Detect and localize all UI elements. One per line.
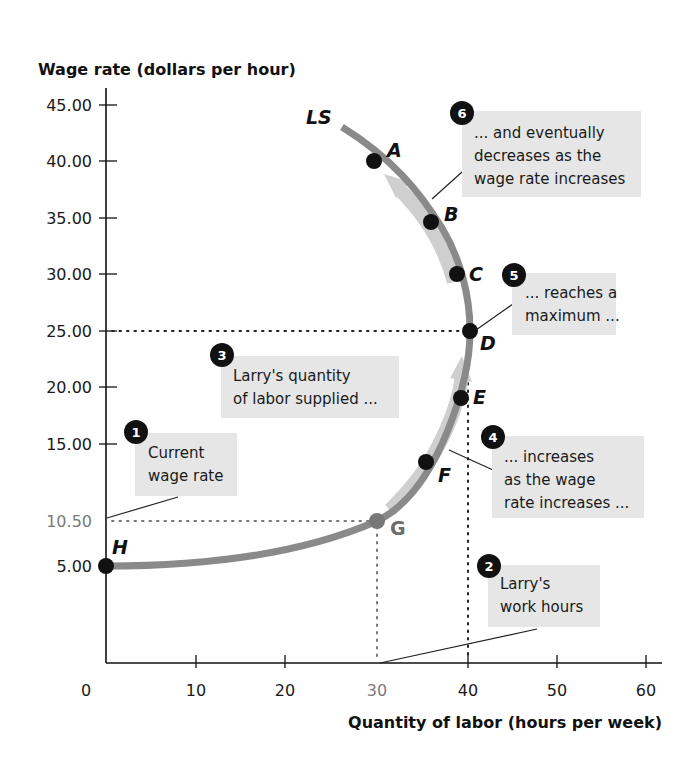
svg-text:wage rate: wage rate xyxy=(148,467,223,485)
y-tick-45: 45.00 xyxy=(46,96,92,115)
y-axis-title: Wage rate (dollars per hour) xyxy=(38,60,296,79)
svg-text:3: 3 xyxy=(217,348,226,363)
y-tick-25: 25.00 xyxy=(46,322,92,341)
point-e xyxy=(453,390,469,406)
y-tick-labels: 45.00 40.00 35.00 30.00 25.00 20.00 15.0… xyxy=(46,96,92,576)
point-label-f: F xyxy=(438,464,451,486)
svg-text:2: 2 xyxy=(484,559,493,574)
svg-text:6: 6 xyxy=(457,106,466,121)
point-label-e: E xyxy=(473,386,486,408)
x-tick-10: 10 xyxy=(186,681,206,700)
point-c xyxy=(449,266,465,282)
svg-text:4: 4 xyxy=(488,430,497,445)
point-a xyxy=(366,153,382,169)
svg-text:... and eventually: ... and eventually xyxy=(474,124,605,142)
svg-text:Current: Current xyxy=(148,444,204,462)
x-tick-labels: 0 10 20 30 40 50 60 xyxy=(81,681,656,700)
point-label-d: D xyxy=(480,332,496,354)
svg-text:Larry's quantity: Larry's quantity xyxy=(233,367,351,385)
arrow-increasing-band xyxy=(390,375,462,510)
note-2: 2 Larry's work hours xyxy=(380,554,600,663)
svg-text:as the wage: as the wage xyxy=(504,471,595,489)
point-b xyxy=(423,214,439,230)
svg-text:... reaches a: ... reaches a xyxy=(525,284,617,302)
x-tick-60: 60 xyxy=(636,681,656,700)
ls-curve xyxy=(106,127,470,566)
x-ticks xyxy=(196,655,646,668)
x-tick-0: 0 xyxy=(81,681,91,700)
x-tick-30: 30 xyxy=(367,681,387,700)
svg-text:1: 1 xyxy=(131,425,140,440)
y-tick-5: 5.00 xyxy=(56,557,92,576)
x-tick-20: 20 xyxy=(275,681,295,700)
y-tick-10-50: 10.50 xyxy=(46,512,92,531)
point-label-h: H xyxy=(112,536,128,558)
y-tick-15: 15.00 xyxy=(46,435,92,454)
note-5: 5 ... reaches a maximum ... xyxy=(476,263,620,335)
svg-text:work hours: work hours xyxy=(500,598,583,616)
point-label-a: A xyxy=(385,139,402,161)
note-1: 1 Current wage rate xyxy=(107,420,237,518)
point-h xyxy=(98,558,114,574)
point-label-g: G xyxy=(390,517,406,539)
note-3: 3 Larry's quantity of labor supplied ... xyxy=(210,343,399,418)
svg-text:5: 5 xyxy=(509,268,518,283)
point-label-b: B xyxy=(444,203,458,225)
note-6: 6 ... and eventually decreases as the wa… xyxy=(432,101,641,199)
svg-text:maximum ...: maximum ... xyxy=(525,307,620,325)
y-tick-40: 40.00 xyxy=(46,152,92,171)
point-d xyxy=(462,323,478,339)
x-tick-40: 40 xyxy=(458,681,478,700)
y-tick-35: 35.00 xyxy=(46,209,92,228)
note-4: 4 ... increases as the wage rate increas… xyxy=(449,425,644,518)
x-tick-50: 50 xyxy=(547,681,567,700)
reference-lines-gray xyxy=(112,521,377,660)
curve-label-ls: LS xyxy=(306,106,332,128)
point-f xyxy=(418,454,434,470)
svg-text:rate increases ...: rate increases ... xyxy=(504,494,629,512)
svg-text:Larry's: Larry's xyxy=(500,575,551,593)
y-tick-20: 20.00 xyxy=(46,378,92,397)
y-tick-30: 30.00 xyxy=(46,265,92,284)
labor-supply-chart: Wage rate (dollars per hour) 45.00 40.00… xyxy=(0,0,700,775)
svg-text:wage rate increases: wage rate increases xyxy=(474,170,625,188)
svg-text:of labor supplied ...: of labor supplied ... xyxy=(233,390,378,408)
point-label-c: C xyxy=(469,263,483,285)
svg-text:decreases as the: decreases as the xyxy=(474,147,601,165)
x-axis-title: Quantity of labor (hours per week) xyxy=(348,713,662,732)
svg-text:... increases: ... increases xyxy=(504,448,594,466)
point-g xyxy=(369,513,385,529)
y-ticks xyxy=(99,105,117,444)
